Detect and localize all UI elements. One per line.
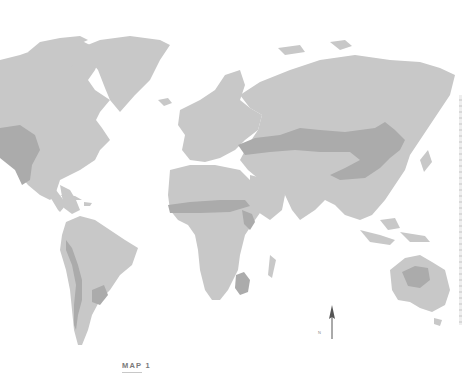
north-arrow-icon [324,305,340,339]
map-title-label: MAP 1 [122,361,151,370]
map-label-underline [122,372,142,373]
south-america [60,216,138,345]
north-america [0,36,170,214]
world-map [0,0,462,378]
zone-southern-africa [235,272,250,295]
north-label: N [318,330,321,335]
australia [390,255,450,326]
